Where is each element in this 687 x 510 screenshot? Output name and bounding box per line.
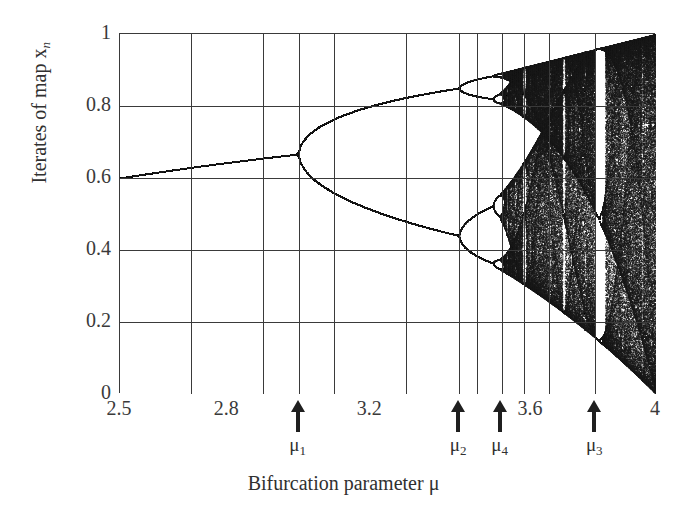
mu-marker-1: μ1 (286, 399, 310, 457)
mu-marker-2: μ2 (446, 399, 470, 457)
y-tick-label: 0.6 (86, 166, 111, 186)
plot-area (119, 33, 655, 393)
up-arrow-icon (446, 399, 470, 433)
mu-marker-label: μ4 (488, 435, 512, 457)
x-tick-label: 2.8 (214, 398, 239, 418)
bifurcation-figure: Iterates of map xn 10.80.60.40.20 2.52.8… (0, 0, 687, 510)
x-tick-label: 2.5 (107, 398, 132, 418)
mu-marker-label: μ3 (582, 435, 606, 457)
x-tick-label: 3.6 (518, 398, 543, 418)
mu-marker-4: μ4 (488, 399, 512, 457)
x-tick-label: 3.2 (357, 398, 382, 418)
y-tick-label: 0.8 (86, 94, 111, 114)
mu-marker-label: μ1 (286, 435, 310, 457)
up-arrow-icon (286, 399, 310, 433)
up-arrow-icon (488, 399, 512, 433)
mu-marker-3: μ3 (582, 399, 606, 457)
y-tick-label: 1 (101, 22, 111, 42)
x-tick-label: 4 (650, 398, 660, 418)
y-axis-subscript: n (38, 42, 53, 49)
mu-marker-label: μ2 (446, 435, 470, 457)
y-axis-title: Iterates of map xn (28, 0, 54, 228)
y-tick-label: 0.2 (86, 310, 111, 330)
x-axis-title: Bifurcation parameter μ (0, 472, 687, 495)
y-axis-variable: x (28, 49, 50, 59)
bifurcation-plot-canvas (120, 34, 656, 394)
up-arrow-icon (582, 399, 606, 433)
y-tick-label: 0.4 (86, 238, 111, 258)
y-axis-title-text: Iterates of map (28, 59, 50, 184)
